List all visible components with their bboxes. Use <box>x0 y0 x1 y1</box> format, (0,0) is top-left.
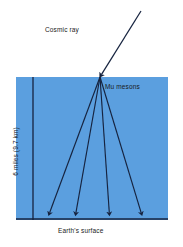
cosmic-ray-arrow <box>101 11 141 75</box>
depth-label: 6 miles (9.7 km) <box>13 119 20 183</box>
atmosphere-block <box>16 77 168 220</box>
cosmic-ray-label: Cosmic ray <box>45 27 79 34</box>
earth-surface-label: Earth's surface <box>58 228 103 235</box>
mu-mesons-label: Mu mesons <box>105 84 140 91</box>
cosmic-ray-diagram: Cosmic ray Mu mesons 6 miles (9.7 km) Ea… <box>0 0 183 247</box>
